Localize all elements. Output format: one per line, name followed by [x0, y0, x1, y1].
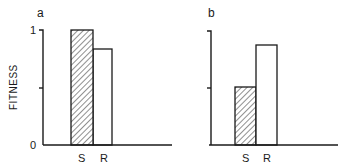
panel-a-label: a	[37, 6, 44, 20]
bar-b-R	[256, 45, 277, 145]
x-tick-label-R: R	[100, 152, 108, 164]
y-axis-label: FITNESS	[8, 64, 19, 110]
x-tick-label-R: R	[263, 152, 271, 164]
x-tick-label-S: S	[242, 152, 249, 164]
bar-a-S	[71, 30, 93, 145]
bar-b-S	[235, 87, 256, 145]
x-tick-label-S: S	[78, 152, 85, 164]
panel-a: a FITNESS 1 0 S R	[8, 6, 172, 164]
y-tick-label-0: 0	[30, 139, 36, 151]
figure: a FITNESS 1 0 S R b S R	[0, 0, 345, 168]
panel-b: b S R	[207, 6, 338, 164]
y-tick-label-1: 1	[30, 24, 36, 36]
bar-a-R	[93, 49, 112, 145]
panel-b-label: b	[208, 6, 215, 20]
